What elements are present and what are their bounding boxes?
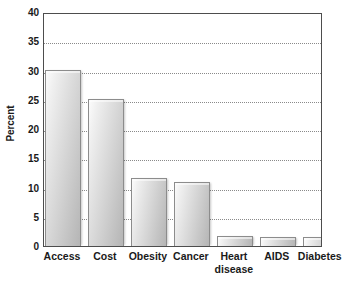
bar bbox=[217, 236, 253, 246]
plot-area bbox=[43, 13, 322, 247]
y-axis-tick-label: 35 bbox=[28, 37, 39, 47]
y-axis-title-text: Percent bbox=[5, 106, 16, 142]
bars-layer bbox=[44, 14, 321, 246]
y-axis-tick-label: 10 bbox=[28, 184, 39, 194]
bar bbox=[45, 70, 81, 246]
x-axis-tick-labels: AccessCostObesityCancerHeart diseaseAIDS… bbox=[43, 250, 322, 286]
y-axis-tick-label: 30 bbox=[28, 67, 39, 77]
bar bbox=[303, 237, 322, 246]
y-axis-tick-label: 40 bbox=[28, 8, 39, 18]
bar bbox=[131, 178, 167, 246]
y-axis-tick-label: 5 bbox=[33, 213, 39, 223]
y-axis-tick-label: 15 bbox=[28, 154, 39, 164]
bar bbox=[174, 182, 210, 246]
y-axis-tick-labels: 0510152025303540 bbox=[18, 0, 42, 247]
x-axis-tick-label: Diabetes bbox=[291, 250, 346, 263]
y-axis-title: Percent bbox=[0, 0, 20, 247]
bar bbox=[88, 99, 124, 246]
y-axis-tick-label: 25 bbox=[28, 96, 39, 106]
y-axis-tick-label: 20 bbox=[28, 125, 39, 135]
bar bbox=[260, 237, 296, 246]
